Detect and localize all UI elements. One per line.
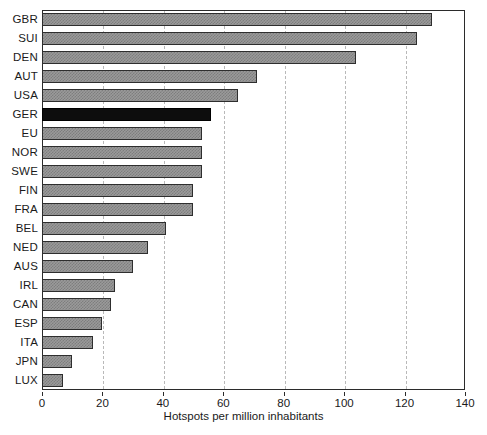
- y-label-ita: ITA: [0, 336, 38, 349]
- bar-row: [42, 51, 465, 64]
- y-label-sui: SUI: [0, 32, 38, 45]
- y-label-gbr: GBR: [0, 13, 38, 26]
- bar-row: [42, 355, 465, 368]
- bar-row: [42, 70, 465, 83]
- bar-row: [42, 13, 465, 26]
- bar-jpn: [42, 355, 72, 368]
- x-tick-label-60: 60: [217, 397, 230, 409]
- bar-row: [42, 108, 465, 121]
- bar-row: [42, 32, 465, 45]
- bar-row: [42, 203, 465, 216]
- bar-ger: [42, 108, 211, 121]
- y-axis-category-labels: GBRSUIDENAUTUSAGEREUNORSWEFINFRABELNEDAU…: [0, 10, 38, 390]
- y-label-esp: ESP: [0, 317, 38, 330]
- bar-bel: [42, 222, 166, 235]
- bar-irl: [42, 279, 115, 292]
- bar-eu: [42, 127, 202, 140]
- bar-fin: [42, 184, 193, 197]
- x-tickmark-140: [465, 392, 466, 396]
- x-tickmark-0: [42, 392, 43, 396]
- bar-row: [42, 241, 465, 254]
- bar-row: [42, 260, 465, 273]
- y-label-den: DEN: [0, 51, 38, 64]
- y-label-eu: EU: [0, 127, 38, 140]
- x-tickmark-80: [284, 392, 285, 396]
- x-tick-label-20: 20: [96, 397, 109, 409]
- bar-row: [42, 184, 465, 197]
- bar-den: [42, 51, 356, 64]
- y-label-can: CAN: [0, 298, 38, 311]
- x-tickmark-20: [102, 392, 103, 396]
- bar-aut: [42, 70, 257, 83]
- x-tick-label-140: 140: [455, 397, 474, 409]
- y-label-nor: NOR: [0, 146, 38, 159]
- y-label-aut: AUT: [0, 70, 38, 83]
- bar-can: [42, 298, 111, 311]
- y-label-ger: GER: [0, 108, 38, 121]
- bars-layer: [42, 10, 465, 390]
- bar-row: [42, 336, 465, 349]
- bar-row: [42, 165, 465, 178]
- y-label-lux: LUX: [0, 374, 38, 387]
- y-label-fin: FIN: [0, 184, 38, 197]
- bar-swe: [42, 165, 202, 178]
- bar-sui: [42, 32, 417, 45]
- y-label-aus: AUS: [0, 260, 38, 273]
- x-tick-label-80: 80: [277, 397, 290, 409]
- bar-fra: [42, 203, 193, 216]
- bar-row: [42, 146, 465, 159]
- x-tick-label-0: 0: [39, 397, 45, 409]
- x-tickmark-100: [344, 392, 345, 396]
- x-tickmark-60: [223, 392, 224, 396]
- bar-ned: [42, 241, 148, 254]
- y-label-irl: IRL: [0, 279, 38, 292]
- bar-row: [42, 127, 465, 140]
- x-tick-label-100: 100: [335, 397, 354, 409]
- bar-row: [42, 374, 465, 387]
- bar-gbr: [42, 13, 432, 26]
- bar-row: [42, 317, 465, 330]
- x-axis-tick-labels: 020406080100120140: [0, 392, 487, 410]
- y-label-fra: FRA: [0, 203, 38, 216]
- x-axis-title: Hotspots per million inhabitants: [0, 410, 487, 422]
- x-tickmark-40: [163, 392, 164, 396]
- y-label-usa: USA: [0, 89, 38, 102]
- bar-row: [42, 89, 465, 102]
- y-label-ned: NED: [0, 241, 38, 254]
- x-tick-label-120: 120: [395, 397, 414, 409]
- bar-row: [42, 298, 465, 311]
- y-label-swe: SWE: [0, 165, 38, 178]
- bar-aus: [42, 260, 133, 273]
- bar-ita: [42, 336, 93, 349]
- bar-usa: [42, 89, 238, 102]
- bar-lux: [42, 374, 63, 387]
- y-label-jpn: JPN: [0, 355, 38, 368]
- bar-row: [42, 222, 465, 235]
- y-label-bel: BEL: [0, 222, 38, 235]
- hotspots-bar-chart: GBRSUIDENAUTUSAGEREUNORSWEFINFRABELNEDAU…: [0, 0, 487, 435]
- bar-esp: [42, 317, 102, 330]
- x-tick-label-40: 40: [156, 397, 169, 409]
- x-tickmark-120: [405, 392, 406, 396]
- bar-row: [42, 279, 465, 292]
- bar-nor: [42, 146, 202, 159]
